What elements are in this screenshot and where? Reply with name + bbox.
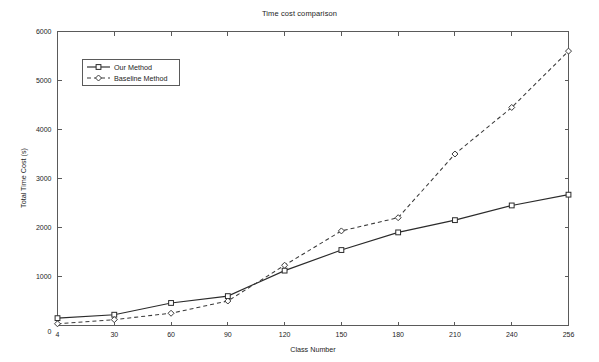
data-point-marker — [396, 230, 401, 235]
y-tick-label: 0 — [48, 328, 52, 335]
chart-legend[interactable]: Our MethodBaseline Method — [83, 60, 180, 86]
chart-plot-area: 0100020003000400050006000 43060901201501… — [0, 0, 599, 362]
series-line-our-method — [58, 195, 569, 318]
x-tick-label: 240 — [506, 331, 518, 338]
data-point-marker — [339, 248, 344, 253]
series-line-baseline-method — [58, 51, 569, 324]
legend-label-baseline-method: Baseline Method — [114, 74, 168, 83]
figure-canvas: Time cost comparison 0100020003000400050… — [0, 0, 599, 362]
data-point-marker — [453, 218, 458, 223]
y-axis-title: Total Time Cost (s) — [19, 148, 28, 208]
y-tick-label: 2000 — [36, 224, 52, 231]
data-series-group — [55, 48, 572, 327]
data-point-marker — [169, 301, 174, 306]
y-tick-label: 5000 — [36, 77, 52, 84]
x-tick-label: 90 — [224, 331, 232, 338]
y-tick-label: 3000 — [36, 175, 52, 182]
x-tick-label: 30 — [110, 331, 118, 338]
y-tick-label: 4000 — [36, 126, 52, 133]
data-point-marker — [338, 228, 344, 234]
x-tick-label: 4 — [56, 331, 60, 338]
data-point-marker — [566, 192, 571, 197]
x-tick-label: 256 — [563, 331, 575, 338]
x-tick-label: 60 — [167, 331, 175, 338]
legend-label-our-method: Our Method — [114, 63, 152, 72]
data-point-marker — [282, 268, 287, 273]
x-tick-label: 120 — [279, 331, 291, 338]
legend-marker-square — [96, 65, 101, 70]
data-point-marker — [282, 262, 288, 268]
x-tick-label: 180 — [392, 331, 404, 338]
y-tick-label: 6000 — [36, 28, 52, 35]
data-point-marker — [55, 316, 60, 321]
data-point-marker — [509, 203, 514, 208]
x-tick-label: 150 — [336, 331, 348, 338]
x-axis-title: Class Number — [290, 345, 336, 354]
data-point-marker — [168, 310, 174, 316]
data-point-marker — [452, 151, 458, 157]
y-tick-label: 1000 — [36, 273, 52, 280]
x-tick-label: 210 — [449, 331, 461, 338]
data-point-marker — [566, 48, 572, 54]
